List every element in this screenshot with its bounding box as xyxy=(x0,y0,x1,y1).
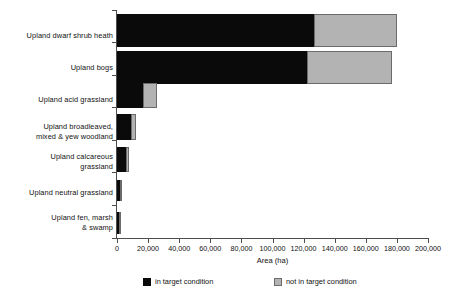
category-label-line: grassland xyxy=(0,162,113,172)
category-label-line: & swamp xyxy=(0,223,113,233)
category-label-line: Upland acid grassland xyxy=(0,95,113,105)
bar-segment-not-in-target-condition xyxy=(314,14,396,47)
chart-legend: in target condition not in target condit… xyxy=(117,277,428,293)
category-label-line: Upland dwarf shrub heath xyxy=(0,31,113,41)
legend-label: not in target condition xyxy=(286,277,357,286)
x-axis-tick xyxy=(366,239,367,243)
legend-swatch-icon xyxy=(274,278,282,286)
legend-label: in target condition xyxy=(155,277,213,286)
bar-chart: Upland dwarf shrub heath Upland bogs Upl… xyxy=(0,0,451,301)
legend-item-not-in-target-condition[interactable]: not in target condition xyxy=(274,277,357,286)
category-label-upland-fen-marsh-swamp: Upland fen, marsh & swamp xyxy=(0,213,113,232)
bar-segment-not-in-target-condition xyxy=(126,147,128,172)
category-label-upland-neutral-grassland: Upland neutral grassland xyxy=(0,188,113,198)
category-label-upland-broadleaved-mixed-yew-woodland: Upland broadleaved, mixed & yew woodland xyxy=(0,122,113,141)
x-axis-tick xyxy=(148,239,149,243)
bar-segment-not-in-target-condition xyxy=(120,180,122,201)
category-label-line: mixed & yew woodland xyxy=(0,132,113,142)
x-axis-tick xyxy=(428,239,429,243)
bar-segment-not-in-target-condition xyxy=(143,83,157,108)
bar-segment-in-target-condition xyxy=(117,83,143,108)
bar-segment-in-target-condition xyxy=(117,51,307,84)
x-axis-tick xyxy=(273,239,274,243)
category-label-upland-dwarf-shrub-heath: Upland dwarf shrub heath xyxy=(0,31,113,41)
x-axis-tick-label: 200,000 xyxy=(408,244,448,253)
x-axis-title: Area (ha) xyxy=(117,256,428,265)
bar-segment-in-target-condition xyxy=(117,114,131,140)
plot-area xyxy=(117,10,428,238)
bar-segment-not-in-target-condition xyxy=(307,51,393,84)
bar-segment-in-target-condition xyxy=(117,147,126,172)
category-label-line: Upland calcareous xyxy=(0,152,113,162)
category-label-line: Upland neutral grassland xyxy=(0,188,113,198)
category-label-line: Upland bogs xyxy=(0,63,113,73)
x-axis-tick xyxy=(304,239,305,243)
bar-segment-not-in-target-condition xyxy=(119,212,121,234)
x-axis-tick xyxy=(397,239,398,243)
x-axis-tick xyxy=(241,239,242,243)
x-axis-tick xyxy=(179,239,180,243)
x-axis-tick xyxy=(335,239,336,243)
category-axis-labels: Upland dwarf shrub heath Upland bogs Upl… xyxy=(0,10,113,238)
legend-item-in-target-condition[interactable]: in target condition xyxy=(143,277,213,286)
bar-segment-in-target-condition xyxy=(117,14,314,47)
legend-swatch-icon xyxy=(143,278,151,286)
x-axis-tick xyxy=(117,239,118,243)
bar-segment-not-in-target-condition xyxy=(131,114,136,140)
x-axis-tick xyxy=(210,239,211,243)
category-label-upland-acid-grassland: Upland acid grassland xyxy=(0,95,113,105)
category-label-upland-calcareous-grassland: Upland calcareous grassland xyxy=(0,152,113,171)
category-label-upland-bogs: Upland bogs xyxy=(0,63,113,73)
category-label-line: Upland broadleaved, xyxy=(0,122,113,132)
category-label-line: Upland fen, marsh xyxy=(0,213,113,223)
